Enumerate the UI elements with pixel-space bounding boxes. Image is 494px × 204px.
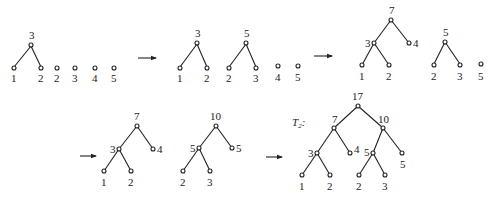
node-3 [29, 43, 33, 47]
label-single: 5 [295, 71, 301, 83]
label-internal: 5 [364, 146, 370, 158]
label-leaf: 4 [157, 143, 163, 155]
singles: 2 3 4 5 [54, 66, 117, 84]
label-leaf: 2 [128, 176, 134, 188]
label-single: 2 [54, 72, 60, 84]
label-root: 5 [244, 27, 250, 39]
label-leaf: 3 [253, 72, 259, 84]
label-leaf: 4 [413, 37, 419, 49]
label-leaf: 1 [359, 70, 365, 82]
label-leaf: 1 [101, 176, 107, 188]
label-leaf: 3 [382, 180, 388, 192]
label-root: 7 [389, 4, 395, 16]
leaf-2 [39, 66, 43, 70]
label-root: 17 [352, 90, 364, 102]
label-internal: 3 [365, 37, 371, 49]
label-root: 10 [210, 110, 222, 122]
huffman-diagram: 3 1 2 2 3 4 5 3 1 2 5 2 3 [0, 0, 494, 204]
label-internal: 3 [110, 143, 116, 155]
final-tree: T2: 17 7 10 3 4 5 5 1 2 2 3 [292, 90, 406, 192]
label-leaf: 4 [354, 143, 360, 155]
label-leaf: 2 [356, 180, 362, 192]
label-leaf: 1 [299, 180, 305, 192]
label-internal: 7 [332, 113, 338, 125]
leaf-1 [12, 66, 16, 70]
label-leaf: 2 [38, 72, 44, 84]
label-internal: 5 [190, 142, 196, 154]
label-root: 3 [29, 29, 35, 41]
label-single: 5 [478, 70, 484, 82]
label-leaf: 2 [327, 180, 333, 192]
label-leaf: 2 [180, 176, 186, 188]
label-single: 3 [72, 72, 78, 84]
label-leaf: 3 [457, 70, 463, 82]
label-leaf: 3 [207, 176, 213, 188]
step2-forest: 3 1 2 5 2 3 4 5 [177, 27, 301, 84]
step1-forest: 3 1 2 2 3 4 5 [11, 29, 117, 84]
label-root: 7 [134, 110, 140, 122]
label-single: 4 [92, 72, 98, 84]
step4-forest: 7 3 4 1 2 10 5 5 2 3 [101, 110, 242, 188]
step3-forest: 7 3 4 1 2 5 2 3 5 [359, 4, 484, 82]
label-root: 5 [443, 26, 449, 38]
label-leaf: 2 [226, 72, 232, 84]
label-leaf: 2 [431, 70, 437, 82]
label-root: 3 [195, 27, 201, 39]
label-leaf: 1 [11, 72, 17, 84]
label-leaf: 5 [400, 158, 406, 170]
label-internal: 10 [378, 113, 390, 125]
tree-name-label: T2: [292, 116, 305, 130]
label-leaf: 1 [177, 72, 183, 84]
label-leaf: 5 [236, 142, 242, 154]
label-leaf: 2 [204, 72, 210, 84]
tree-3: 3 1 2 [11, 29, 44, 84]
label-single: 5 [111, 72, 117, 84]
label-single: 4 [275, 71, 281, 83]
label-leaf: 2 [386, 70, 392, 82]
label-internal: 3 [308, 147, 314, 159]
